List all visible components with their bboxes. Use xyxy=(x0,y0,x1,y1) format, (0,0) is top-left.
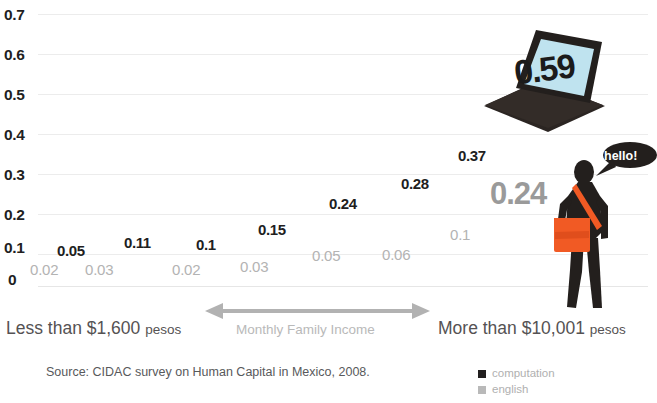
data-label-computation-7: 0.37 xyxy=(458,148,486,163)
ytick-label-2: 0.5 xyxy=(4,87,25,103)
axis-label-right: More than $10,001 pesos xyxy=(438,320,626,338)
data-label-computation-4: 0.15 xyxy=(258,222,286,237)
data-label-english-6: 0.06 xyxy=(382,247,410,262)
data-label-english-5: 0.05 xyxy=(312,248,340,263)
axis-label-monthly-family-income: Monthly Family Income xyxy=(236,322,375,337)
legend-swatch-computation-icon xyxy=(478,370,486,378)
infographic-chart: 0.7 0.6 0.5 0.4 0.3 0.2 0.1 0 0.05 0.11 … xyxy=(0,0,657,403)
data-label-english-8: 0.24 xyxy=(490,178,546,209)
legend-label-computation: computation xyxy=(492,368,555,380)
person-illustration xyxy=(548,160,622,310)
ytick-label-5: 0.2 xyxy=(4,207,25,223)
axis-right-amount: $10,001 xyxy=(522,318,590,338)
legend-label-english: english xyxy=(492,384,528,396)
ytick-label-7: 0 xyxy=(8,272,16,288)
data-label-computation-3: 0.1 xyxy=(196,237,216,252)
data-label-computation-1: 0.05 xyxy=(57,243,85,258)
data-label-computation-5: 0.24 xyxy=(329,196,357,211)
axis-left-unit: pesos xyxy=(145,322,181,337)
axis-right-unit: pesos xyxy=(590,322,626,337)
data-label-computation-2: 0.11 xyxy=(124,235,151,250)
ytick-label-3: 0.4 xyxy=(4,127,25,143)
ytick-label-6: 0.1 xyxy=(4,240,25,256)
ytick-label-0: 0.7 xyxy=(4,7,25,23)
data-label-english-3: 0.02 xyxy=(172,262,200,277)
legend-item-computation: computation xyxy=(478,367,555,381)
source-note: Source: CIDAC survey on Human Capital in… xyxy=(46,365,370,379)
axis-label-left: Less than $1,600 pesos xyxy=(6,320,181,338)
data-label-computation-6: 0.28 xyxy=(401,176,429,191)
legend-swatch-english-icon xyxy=(478,386,486,394)
legend: computation english xyxy=(478,367,555,399)
income-range-arrow xyxy=(205,300,430,322)
ytick-label-4: 0.3 xyxy=(4,167,25,183)
axis-row: Monthly Family Income Less than $1,600 p… xyxy=(0,300,657,355)
axis-left-amount: $1,600 xyxy=(87,318,145,338)
axis-left-text: Less than xyxy=(6,318,87,338)
data-label-english-2: 0.03 xyxy=(85,262,113,277)
legend-item-english: english xyxy=(478,383,555,397)
data-label-english-4: 0.03 xyxy=(240,259,268,274)
axis-right-text: More than xyxy=(438,318,522,338)
ytick-label-1: 0.6 xyxy=(4,47,25,63)
data-label-english-1: 0.02 xyxy=(30,262,58,277)
laptop-value-label: 0.59 xyxy=(512,48,576,89)
plot-area: 0.7 0.6 0.5 0.4 0.3 0.2 0.1 0 0.05 0.11 … xyxy=(0,0,657,300)
data-label-english-7: 0.1 xyxy=(450,227,470,242)
